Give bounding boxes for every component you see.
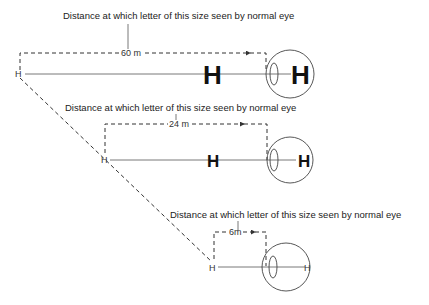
caption-24m: Distance at which letter of this size se… — [65, 102, 296, 113]
source-letter-6m: H — [209, 263, 216, 273]
caption-6m: Distance at which letter of this size se… — [170, 209, 401, 220]
acuity-diagram: Distance at which letter of this size se… — [0, 0, 429, 305]
distance-bracket-right-24m — [244, 124, 267, 160]
distance-bracket-left-6m — [214, 232, 228, 259]
distance-bracket-right-60m — [250, 53, 266, 72]
distance-bracket-left-24m — [105, 124, 168, 153]
distance-bracket-left-60m — [20, 53, 120, 70]
distance-label-6m: 6m — [229, 227, 242, 237]
distance-label-24m: 24 m — [169, 119, 189, 129]
retina-letter-60m: H — [291, 60, 310, 90]
object-letter-24m: H — [207, 152, 219, 171]
panel-6m: Distance at which letter of this size se… — [170, 209, 401, 291]
panel-24m: Distance at which letter of this size se… — [65, 102, 313, 183]
object-letter-60m: H — [203, 60, 222, 90]
caption-60m: Distance at which letter of this size se… — [63, 10, 294, 21]
distance-label-60m: 60 m — [121, 48, 141, 58]
retina-letter-6m: H — [304, 263, 311, 273]
source-letter-60m: H — [15, 69, 22, 79]
distance-bracket-right-6m — [255, 232, 266, 266]
panel-60m: Distance at which letter of this size se… — [15, 10, 314, 98]
retina-letter-24m: H — [298, 152, 310, 171]
source-letter-24m: H — [101, 155, 108, 165]
